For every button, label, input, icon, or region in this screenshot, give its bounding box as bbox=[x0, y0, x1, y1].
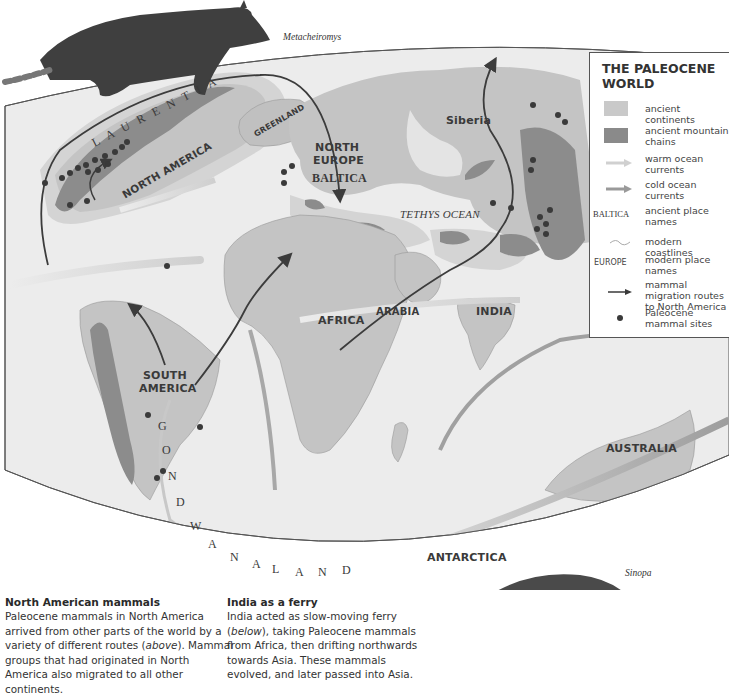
caption-north-american-mammals: North American mammals Paleocene mammals… bbox=[5, 595, 233, 697]
label-india: INDIA bbox=[476, 306, 512, 318]
label-gondwanaland-g: G bbox=[158, 420, 167, 432]
legend-item-ancient-place-names: BALTICA ancient place names bbox=[590, 204, 729, 234]
label-arabia: ARABIA bbox=[376, 306, 419, 318]
species-label-metacheiromys: Metacheiromys bbox=[283, 32, 341, 42]
legend-item-migration-routes: mammal migration routes to North America bbox=[590, 279, 729, 309]
label-gondwanaland-n3: N bbox=[318, 566, 327, 578]
legend-item-mountain-chains: ancient mountain chains bbox=[590, 124, 729, 154]
label-baltica: BALTICA bbox=[312, 172, 367, 184]
migration-arrow-icon bbox=[598, 285, 642, 307]
label-south-america-2: AMERICA bbox=[139, 383, 197, 395]
site-dot-icon bbox=[598, 311, 642, 333]
label-siberia: Siberia bbox=[446, 115, 491, 127]
cold-current-arrow-icon bbox=[598, 182, 642, 204]
species-label-sinopa: Sinopa bbox=[625, 568, 651, 578]
caption-title: North American mammals bbox=[5, 595, 233, 609]
label-gondwanaland-n2: N bbox=[230, 551, 239, 563]
mountain-swatch-icon bbox=[604, 128, 628, 143]
sinopa-illustration bbox=[455, 574, 725, 590]
label-gondwanaland-d: D bbox=[176, 496, 185, 508]
ancient-place-name-sample: BALTICA bbox=[593, 209, 629, 219]
legend-panel: THE PALEOCENE WORLD ancient continents a… bbox=[589, 52, 729, 338]
label-tethys-ocean: TETHYS OCEAN bbox=[400, 208, 480, 220]
label-gondwanaland-w: W bbox=[190, 520, 202, 532]
label-antarctica: ANTARCTICA bbox=[427, 552, 507, 564]
label-africa: AFRICA bbox=[318, 315, 364, 327]
ancient-continents-swatch-icon bbox=[604, 101, 628, 116]
modern-place-name-sample: EUROPE bbox=[594, 258, 627, 267]
label-gondwanaland-o: O bbox=[162, 444, 171, 456]
label-north-europe-1: NORTH bbox=[315, 142, 359, 154]
label-gondwanaland-a2: A bbox=[252, 558, 261, 570]
legend-item-mammal-sites: Paleocene mammal sites bbox=[590, 311, 729, 341]
legend-title: THE PALEOCENE WORLD bbox=[602, 61, 715, 91]
warm-current-arrow-icon bbox=[598, 156, 642, 178]
label-gondwanaland-a1: A bbox=[208, 538, 217, 550]
label-gondwanaland-a3: A bbox=[295, 566, 304, 578]
label-north-europe-2: EUROPE bbox=[313, 155, 364, 167]
caption-title: India as a ferry bbox=[227, 595, 427, 609]
label-gondwanaland-l: L bbox=[272, 563, 280, 575]
label-gondwanaland-d2: D bbox=[342, 564, 351, 576]
label-australia: AUSTRALIA bbox=[606, 443, 677, 455]
label-gondwanaland-n: N bbox=[168, 470, 177, 482]
caption-india-ferry: India as a ferry India acted as slow-mov… bbox=[227, 595, 427, 682]
label-south-america-1: SOUTH bbox=[143, 370, 187, 382]
